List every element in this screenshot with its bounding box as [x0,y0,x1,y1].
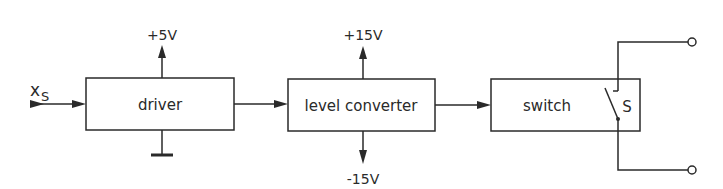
switch-label: switch [523,97,571,115]
level-converter-block: level converter +15V -15V [288,27,435,187]
driver-supply-label: +5V [147,27,178,43]
driver-label: driver [138,96,183,114]
arrow-up-icon [158,45,166,58]
switch-contact-label: S [622,98,632,116]
arrow-head-icon [72,100,86,108]
arrow-head-icon [477,101,491,109]
arrow-head-icon [274,100,288,108]
level-converter-bottom-label: -15V [347,171,380,187]
driver-block: driver +5V [86,27,234,155]
input-signal: x S [30,80,86,108]
level-converter-label: level converter [305,97,419,115]
output-terminal-top-icon [688,38,696,46]
arrow-down-icon [359,150,367,164]
block-diagram: x S driver +5V level converter +15V -15V… [0,0,723,189]
switch-block: switch S [491,38,696,174]
level-converter-top-label: +15V [343,27,383,43]
arrow-up-icon [359,46,367,59]
input-subscript: S [41,89,49,104]
input-label: x [30,80,40,100]
output-terminal-bottom-icon [688,166,696,174]
